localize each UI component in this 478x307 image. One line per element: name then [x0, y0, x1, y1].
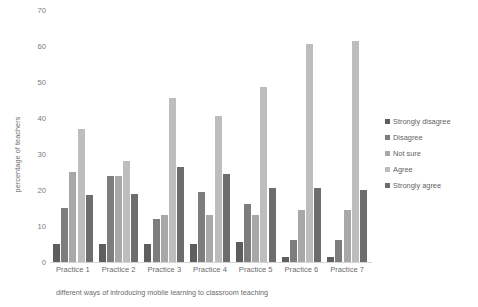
x-axis-tick-label: Practice 2 — [102, 265, 136, 274]
bar-group — [233, 10, 279, 262]
bar — [335, 240, 342, 262]
bar — [298, 210, 305, 262]
chart-legend: Strongly disagreeDisagreeNot sureAgreeSt… — [385, 113, 477, 193]
x-axis-tick-label: Practice 6 — [285, 265, 319, 274]
x-axis-tick-label: Practice 4 — [193, 265, 227, 274]
y-axis-tick-60: 60 — [24, 42, 46, 51]
bar — [290, 240, 297, 262]
y-axis-title: percentage of teachers — [13, 90, 22, 220]
bar — [306, 44, 313, 262]
y-axis-tick-10: 10 — [24, 222, 46, 231]
legend-label: Agree — [393, 165, 413, 174]
bar — [115, 176, 122, 262]
x-axis-title: different ways of introducing mobile lea… — [56, 288, 268, 297]
legend-label: Strongly disagree — [393, 117, 451, 126]
bar-group — [279, 10, 325, 262]
bar — [131, 194, 138, 262]
y-axis-tick-30: 30 — [24, 150, 46, 159]
x-axis-tick-label: Practice 3 — [147, 265, 181, 274]
x-axis-tick-label: Practice 7 — [330, 265, 364, 274]
bar — [177, 167, 184, 262]
x-axis-tick-label: Practice 5 — [239, 265, 273, 274]
legend-swatch-icon — [385, 135, 390, 140]
y-axis-tick-0: 0 — [24, 258, 46, 267]
y-axis-tick-50: 50 — [24, 78, 46, 87]
x-axis-baseline — [50, 262, 372, 263]
legend-swatch-icon — [385, 119, 390, 124]
grouped-bar-chart: percentage of teachers 010203040506070 P… — [0, 0, 478, 307]
bar — [99, 244, 106, 262]
bar — [144, 244, 151, 262]
y-axis-tick-70: 70 — [24, 6, 46, 15]
bar — [352, 41, 359, 262]
bar — [169, 98, 176, 262]
bar — [107, 176, 114, 262]
bar — [206, 215, 213, 262]
bar — [344, 210, 351, 262]
bar — [161, 215, 168, 262]
bar — [314, 188, 321, 262]
legend-label: Not sure — [393, 149, 421, 158]
legend-swatch-icon — [385, 167, 390, 172]
y-axis-tick-labels: 010203040506070 — [24, 10, 46, 262]
bar — [53, 244, 60, 262]
bar-group — [50, 10, 96, 262]
legend-label: Strongly agree — [393, 181, 441, 190]
bar — [61, 208, 68, 262]
bar — [190, 244, 197, 262]
legend-item[interactable]: Strongly agree — [385, 177, 477, 193]
bar — [86, 195, 93, 262]
bar — [78, 129, 85, 262]
bar-group — [141, 10, 187, 262]
legend-item[interactable]: Strongly disagree — [385, 113, 477, 129]
legend-label: Disagree — [393, 133, 423, 142]
legend-swatch-icon — [385, 151, 390, 156]
x-axis-tick-labels: Practice 1Practice 2Practice 3Practice 4… — [50, 265, 370, 279]
bar — [260, 87, 267, 262]
y-axis-tick-40: 40 — [24, 114, 46, 123]
bar — [269, 188, 276, 262]
bar — [244, 204, 251, 262]
bar — [153, 219, 160, 262]
bar — [360, 190, 367, 262]
legend-item[interactable]: Agree — [385, 161, 477, 177]
legend-swatch-icon — [385, 183, 390, 188]
bar — [252, 215, 259, 262]
legend-item[interactable]: Disagree — [385, 129, 477, 145]
bar-group — [324, 10, 370, 262]
bar — [123, 161, 130, 262]
legend-item[interactable]: Not sure — [385, 145, 477, 161]
bar — [69, 172, 76, 262]
plot-area — [50, 10, 370, 262]
bar — [223, 174, 230, 262]
bar — [198, 192, 205, 262]
bar-group — [96, 10, 142, 262]
x-axis-tick-label: Practice 1 — [56, 265, 90, 274]
bar — [215, 116, 222, 262]
bar-group — [187, 10, 233, 262]
bar — [236, 242, 243, 262]
y-axis-tick-20: 20 — [24, 186, 46, 195]
